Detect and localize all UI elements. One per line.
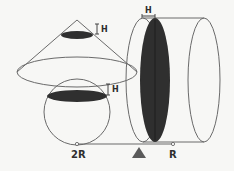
sphere [44,79,110,145]
fulcrum-triangle-icon [132,147,146,158]
left-arm-label: 2R [71,149,86,160]
sphere-slice-height-bracket [106,84,110,95]
cone-base [17,57,137,87]
sphere-slice-height-label: H [112,85,119,94]
sphere-slice [47,90,107,102]
diagram-svg: H H H 2R R [0,0,234,171]
left-pivot-point [75,142,78,145]
cone-slice-height-bracket [95,24,99,34]
cone-slice-height-label: H [101,25,108,34]
cone-slice [61,31,93,39]
right-arm-label: R [169,149,177,160]
cylinder-slice-height-label: H [145,6,152,15]
cone [17,20,137,87]
archimedes-balance-diagram: H H H 2R R [0,0,234,171]
right-pivot-point [171,142,174,145]
cylinder-right-end [188,18,220,142]
